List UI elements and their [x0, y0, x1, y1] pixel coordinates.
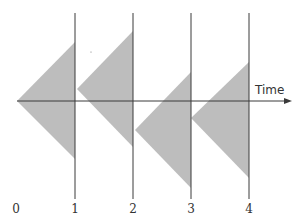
- tick-label-3: 3: [187, 202, 195, 216]
- triangle-2: [77, 31, 133, 147]
- stray-dot: [90, 51, 91, 52]
- tick-label-4: 4: [245, 202, 253, 216]
- arrowhead-icon: [284, 98, 292, 104]
- time-diagram: Time 01234: [0, 0, 304, 218]
- triangle-4: [191, 62, 249, 178]
- tick-label-0: 0: [12, 202, 20, 216]
- axis-title-time: Time: [254, 83, 284, 97]
- tick-label-1: 1: [71, 202, 79, 216]
- tick-label-2: 2: [129, 202, 137, 216]
- tick-labels-group: 01234: [12, 202, 253, 216]
- triangle-3: [135, 72, 191, 188]
